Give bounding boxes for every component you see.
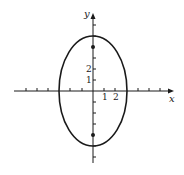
focus-upper-point xyxy=(91,45,95,49)
ellipse-diagram xyxy=(0,0,184,175)
x-axis xyxy=(14,88,174,94)
y-tick-label-2: 2 xyxy=(86,65,92,74)
x-tick-label-1: 1 xyxy=(102,93,108,102)
x-tick-label-2: 2 xyxy=(113,93,119,102)
x-axis-label: x xyxy=(169,94,175,104)
y-axis-label: y xyxy=(84,9,90,19)
y-tick-label-1: 1 xyxy=(86,76,92,85)
y-axis-arrow-icon xyxy=(91,13,96,19)
focus-lower-point xyxy=(91,133,95,137)
